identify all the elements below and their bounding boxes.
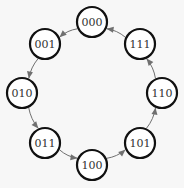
arrowhead-icon <box>147 59 154 66</box>
state-node-000: 000 <box>77 7 107 37</box>
state-node-011: 011 <box>30 128 60 158</box>
state-label: 011 <box>35 137 56 150</box>
state-label: 010 <box>12 87 33 100</box>
arrowhead-icon <box>59 30 66 37</box>
edge-010-to-011 <box>29 108 39 129</box>
arrowhead-icon <box>32 121 39 128</box>
state-diagram: 000001010011100101110111 <box>0 0 184 188</box>
edge-110-to-111 <box>147 59 156 79</box>
state-node-111: 111 <box>125 29 155 59</box>
arrowhead-icon <box>70 154 77 160</box>
arrowhead-icon <box>118 150 125 157</box>
state-label: 001 <box>35 38 56 51</box>
arrowhead-icon <box>27 71 33 78</box>
arrowhead-icon <box>152 108 158 115</box>
state-diagram-canvas: 000001010011100101110111 <box>0 0 184 188</box>
arrowhead-icon <box>107 27 114 33</box>
edge-111-to-000 <box>107 27 126 38</box>
edge-100-to-101 <box>107 150 126 159</box>
state-node-100: 100 <box>77 150 107 180</box>
state-label: 110 <box>152 87 173 100</box>
state-node-101: 101 <box>125 128 155 158</box>
edge-000-to-001 <box>59 29 77 37</box>
state-node-010: 010 <box>7 78 37 108</box>
edge-101-to-110 <box>146 108 157 129</box>
state-node-001: 001 <box>30 29 60 59</box>
state-label: 101 <box>130 137 151 150</box>
state-label: 111 <box>130 38 151 51</box>
state-label: 100 <box>82 159 103 172</box>
state-label: 000 <box>82 16 103 29</box>
state-node-110: 110 <box>147 78 177 108</box>
edge-001-to-010 <box>27 58 38 78</box>
edge-011-to-100 <box>59 150 77 160</box>
nodes-layer: 000001010011100101110111 <box>7 7 177 180</box>
